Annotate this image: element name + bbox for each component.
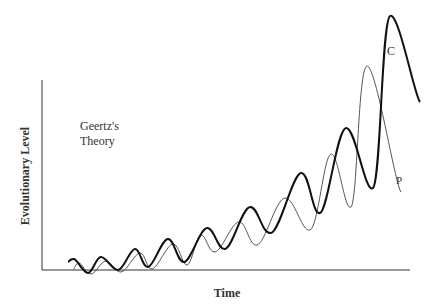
chart: Geertz's Theory Time Evolutionary Level … (0, 0, 437, 307)
series-p-curve (73, 66, 401, 274)
series-p-label: P (396, 174, 402, 186)
annotation-line2: Theory (80, 134, 115, 148)
annotation-line1: Geertz's (80, 119, 119, 133)
y-axis-label: Evolutionary Level (18, 126, 32, 225)
series-c-label: C (387, 44, 395, 58)
x-axis-label: Time (214, 286, 241, 300)
series-c-curve (68, 16, 420, 273)
